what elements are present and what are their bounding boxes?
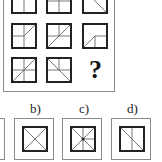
grid-cell-r3c1 (11, 57, 37, 83)
grid-cell-r1c3 (82, 0, 108, 14)
option-b-label: b) (30, 102, 41, 115)
option-b-frame[interactable] (14, 118, 54, 160)
option-figure-icon (22, 126, 48, 152)
question-mark: ? (89, 57, 102, 83)
figure-icon (82, 0, 108, 14)
option-figure-icon (70, 126, 96, 152)
figure-icon (82, 23, 108, 49)
option-a-frame[interactable] (0, 118, 5, 160)
option-c-label: c) (79, 102, 89, 115)
figure-icon (11, 57, 37, 83)
figure-icon (46, 57, 72, 83)
grid-cell-r3c2 (46, 57, 72, 83)
figure-icon (46, 23, 72, 49)
grid-cell-r1c2 (46, 0, 72, 14)
option-d-frame[interactable] (111, 118, 151, 160)
puzzle-grid-panel: ? (3, 0, 115, 92)
figure-icon (11, 0, 37, 14)
option-c-frame[interactable] (62, 118, 102, 160)
option-d-label: d) (127, 102, 138, 115)
grid-cell-r2c2 (46, 23, 72, 49)
figure-icon (11, 23, 37, 49)
option-figure-icon (119, 126, 145, 152)
grid-cell-r2c1 (11, 23, 37, 49)
grid-cell-r2c3 (82, 23, 108, 49)
grid-cell-r1c1 (11, 0, 37, 14)
figure-icon (46, 0, 72, 14)
